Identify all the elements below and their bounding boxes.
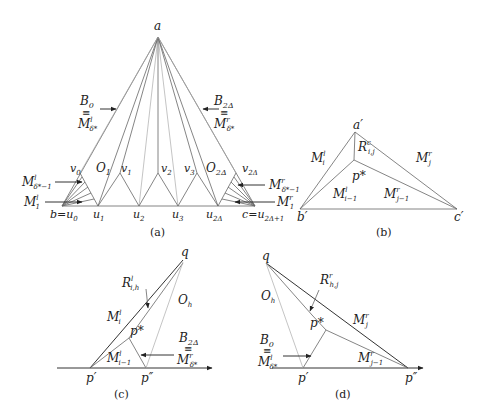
label-Ml-delta-d: Mlδ* bbox=[257, 354, 278, 371]
edge-pstar-pdprime bbox=[129, 338, 146, 368]
label-u2: u2 bbox=[133, 208, 145, 223]
zigzag-v-u bbox=[80, 173, 236, 206]
panel-d: q Rrh,j Oh Mrj p* B0 ≡ Mlδ* Mrj−1 p′ p″ … bbox=[257, 249, 423, 401]
label-b-prime: b′ bbox=[297, 210, 308, 224]
arrow-Rl-ih bbox=[146, 289, 148, 308]
label-pdprime-d: p″ bbox=[405, 371, 418, 385]
label-u1: u1 bbox=[93, 208, 105, 223]
label-Rr-hj: Rrh,j bbox=[319, 272, 339, 289]
label-pstar-d: p* bbox=[310, 316, 324, 330]
apex-to-v1 bbox=[120, 37, 158, 173]
label-pprime-d: p′ bbox=[298, 371, 309, 385]
apex-to-u2d bbox=[158, 37, 218, 206]
label-Rl-ih: Rli,h bbox=[121, 275, 139, 292]
apex-to-v3 bbox=[158, 37, 197, 173]
label-Oh-c: Oh bbox=[178, 293, 192, 309]
label-u2d: u2Δ bbox=[206, 208, 223, 223]
label-Ml-1: Ml1 bbox=[23, 194, 40, 211]
edge-q-pprime-d bbox=[266, 263, 303, 368]
label-b-u0: b=u0 bbox=[50, 208, 78, 223]
label-c-prime: c′ bbox=[454, 210, 464, 224]
arrow-Rr-hj bbox=[310, 290, 319, 311]
edge-a-pstar bbox=[354, 132, 355, 160]
label-Ml-i-1-c: Mli−1 bbox=[106, 350, 131, 367]
caption-b: (b) bbox=[376, 226, 392, 239]
label-Mr-delta-star: Mrδ* bbox=[213, 116, 235, 133]
figure-canvas: a B0 ≡ Mlδ* B2Δ ≡ Mrδ* v0 v1 v2 v3 v2Δ O… bbox=[0, 0, 483, 417]
edge-q-pdprime-d bbox=[266, 263, 408, 368]
caption-d: (d) bbox=[335, 388, 351, 401]
label-Ml-i-1: Mli−1 bbox=[332, 186, 357, 203]
panel-b: a′ Rci,j Mli Mrj p* Mli−1 Mrj−1 b′ c′ (b… bbox=[297, 118, 464, 239]
label-Ml-i: Mli bbox=[310, 150, 326, 167]
label-q-c: q bbox=[181, 245, 189, 259]
label-Mr-delta-c: Mrδ* bbox=[176, 352, 198, 369]
label-Mr-j-1: Mrj−1 bbox=[383, 186, 409, 203]
label-Oh-d: Oh bbox=[261, 289, 275, 305]
label-O2d: O2Δ bbox=[206, 161, 227, 177]
label-Mr-j-1-d: Mrj−1 bbox=[357, 350, 383, 367]
panel-c: q Rli,h Oh Mli p* B2Δ ≡ Mrδ* Mli−1 p′ p″… bbox=[57, 245, 212, 401]
label-Ml-i-c: Mli bbox=[106, 309, 122, 326]
label-Mr-1: Mr1 bbox=[276, 194, 294, 211]
label-pprime-c: p′ bbox=[86, 371, 97, 385]
caption-a: (a) bbox=[150, 226, 165, 239]
label-Rc-ij: Rci,j bbox=[357, 139, 375, 156]
label-Ml-delta-star: Mlδ* bbox=[77, 116, 98, 133]
label-Mr-delta-minus-1: Mrδ*−1 bbox=[268, 177, 300, 194]
label-p-star: p* bbox=[352, 169, 366, 183]
label-pdprime-c: p″ bbox=[141, 371, 154, 385]
apex-to-u3 bbox=[158, 37, 178, 206]
edge-q-pstar-d bbox=[266, 263, 312, 315]
label-Mr-j: Mrj bbox=[415, 150, 432, 167]
label-v2: v2 bbox=[161, 162, 172, 177]
label-u3: u3 bbox=[172, 208, 184, 223]
label-c-u2d1: c=u2Δ+1 bbox=[242, 208, 284, 223]
label-q-d: q bbox=[262, 249, 270, 263]
label-Mr-j-d: Mrj bbox=[352, 312, 369, 329]
label-pstar-c: p* bbox=[130, 324, 144, 338]
apex-to-u2 bbox=[139, 37, 158, 206]
label-O1: O1 bbox=[96, 161, 111, 177]
caption-c: (c) bbox=[114, 388, 129, 401]
label-v3: v3 bbox=[184, 162, 195, 177]
label-Ml-delta-minus-1: Mlδ*−1 bbox=[21, 174, 52, 191]
label-v2d: v2Δ bbox=[242, 162, 258, 177]
label-a: a bbox=[154, 19, 161, 33]
label-v1: v1 bbox=[121, 162, 132, 177]
edge-pstar-pprime-d bbox=[303, 330, 326, 368]
label-a-prime: a′ bbox=[353, 118, 363, 132]
apex-to-u1 bbox=[98, 37, 158, 206]
label-v0: v0 bbox=[70, 162, 81, 177]
